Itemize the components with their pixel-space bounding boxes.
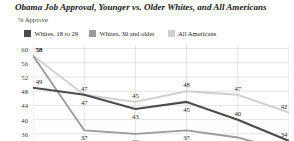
legend-label-whites-18-29: Whites, 18 to 29 — [35, 30, 79, 37]
legend-label-all-americans: All Americans — [178, 30, 216, 37]
data-point-label: 58 — [36, 45, 43, 52]
chart-figure: Obama Job Approval, Younger vs. Older Wh… — [0, 0, 294, 141]
y-axis-tick: 56 — [21, 59, 28, 66]
legend-item-whites-18-29[interactable]: Whites, 18 to 29 — [24, 30, 78, 37]
chart-series-lines — [33, 56, 289, 141]
data-point-label: 36 — [132, 137, 139, 141]
data-point-label: 48 — [183, 81, 190, 88]
data-point-label: 47 — [235, 84, 242, 91]
y-axis-tick: 60 — [21, 45, 28, 52]
y-axis-tick: 48 — [21, 88, 28, 95]
legend-label-whites-30-older: Whites, 30 and older — [100, 30, 155, 37]
y-axis-tick: 52 — [21, 74, 28, 81]
series-line — [33, 56, 289, 113]
data-point-label: 45 — [132, 91, 139, 98]
data-point-label: 47 — [81, 84, 88, 91]
data-point-label: 37 — [183, 134, 190, 141]
data-point-label: 37 — [81, 134, 88, 141]
data-point-label: 47 — [81, 98, 88, 105]
data-point-label: 40 — [235, 109, 242, 116]
y-axis-tick: 40 — [21, 116, 28, 123]
chart-subtitle: % Approve — [18, 16, 48, 23]
legend-item-whites-30-older[interactable]: Whites, 30 and older — [89, 30, 154, 37]
chart-svg — [33, 45, 289, 141]
data-point-label: 45 — [183, 105, 190, 112]
legend-swatch-whites-18-29 — [24, 30, 31, 37]
y-axis-tick: 36 — [21, 130, 28, 137]
legend-swatch-whites-30-older — [89, 30, 96, 37]
legend-item-all-americans[interactable]: All Americans — [168, 30, 217, 37]
chart-plot-area: 4947434540345837363735584745484742 — [33, 45, 289, 141]
y-axis-tick-labels: 60565248444036 — [0, 45, 31, 141]
data-point-label: 34 — [281, 131, 288, 138]
data-point-label: 43 — [132, 113, 139, 120]
data-point-label: 49 — [36, 77, 43, 84]
y-axis-tick: 44 — [21, 102, 28, 109]
legend-swatch-all-americans — [168, 30, 175, 37]
chart-legend: Whites, 18 to 29 Whites, 30 and older Al… — [24, 28, 216, 39]
data-point-label: 42 — [281, 102, 288, 109]
chart-title: Obama Job Approval, Younger vs. Older Wh… — [15, 2, 267, 12]
